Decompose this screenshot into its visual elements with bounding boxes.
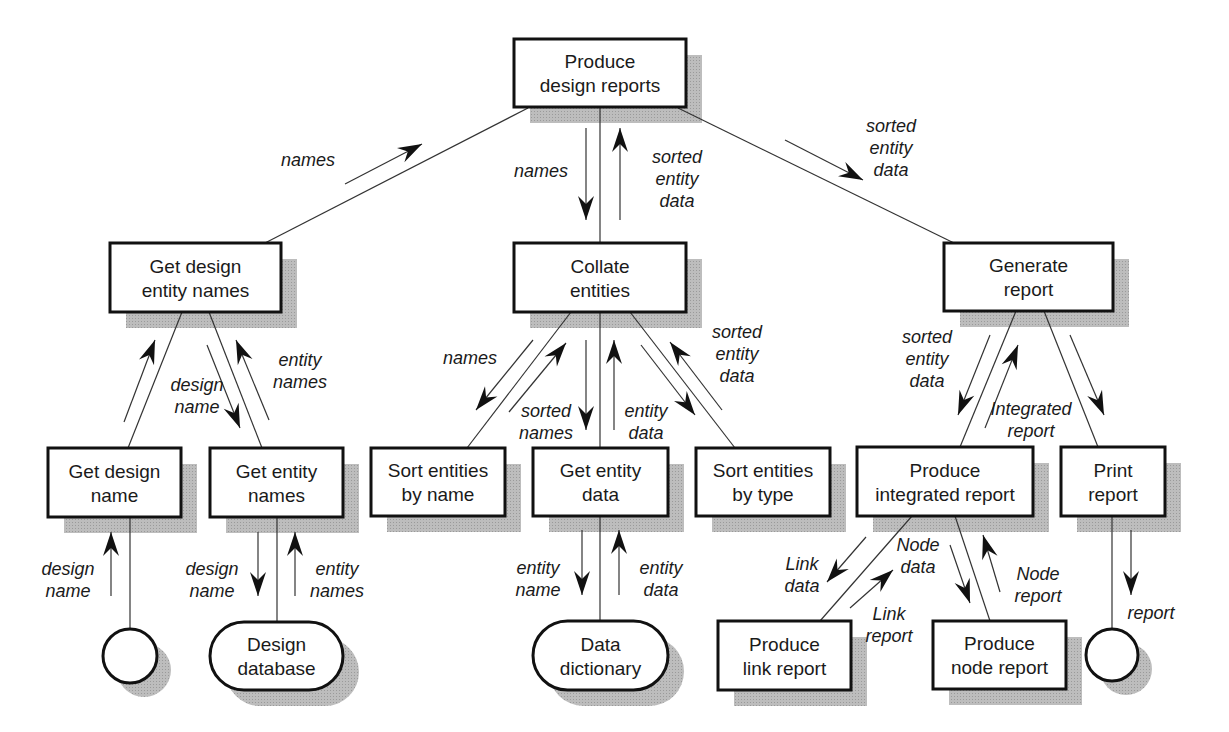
flow-label: entity [715,344,759,364]
module-sort-entities-by-name[interactable]: Sort entitiesby name [371,448,505,516]
module-label: Produce [964,633,1035,654]
module-produce-node-report[interactable]: Producenode report [933,621,1066,689]
module-label: data [582,484,619,505]
module-box [944,243,1113,311]
module-label: Data [580,634,621,655]
data-flow: entitynames [236,340,327,420]
data-store-shape [210,622,343,690]
module-terminator-left[interactable] [103,629,157,683]
module-data-dictionary[interactable]: Datadictionary [533,621,668,690]
module-label: name [91,485,139,506]
flow-label: report [1127,603,1175,623]
arrowhead-icon [870,570,893,592]
module-label: by type [732,484,793,505]
flow-label: data [900,557,935,577]
module-get-design-name[interactable]: Get designname [48,448,181,517]
data-flow: names [281,144,422,184]
structure-chart: Producedesign reportsGet designentity na… [0,0,1229,732]
flow-label: entity [315,559,359,579]
flow-label: Integrated [990,399,1072,419]
module-box [1061,447,1165,516]
module-design-database[interactable]: Designdatabase [210,622,343,690]
flow-label: names [443,348,497,368]
module-generate-report[interactable]: Generatereport [944,243,1113,311]
flow-label: sorted [652,147,703,167]
data-flow: entitydata [611,530,684,600]
data-flow [124,340,155,422]
data-flow: sortedentitydata [612,128,703,220]
arrowhead-icon [827,559,849,582]
data-flow: entitynames [287,532,364,601]
module-get-design-entity-names[interactable]: Get designentity names [110,243,281,312]
module-label: Produce [749,634,820,655]
terminator-circle [1086,629,1138,681]
flow-label: Link [785,554,819,574]
module-label: Sort entities [388,460,488,481]
module-label: entity names [142,280,250,301]
data-flow: sortedentitydata [670,322,763,410]
module-produce-integrated-report[interactable]: Produceintegrated report [857,447,1033,516]
flow-label: entity [624,401,668,421]
module-label: Generate [989,255,1068,276]
arrowhead-icon [545,343,567,367]
module-sort-entities-by-type[interactable]: Sort entitiesby type [696,448,830,516]
module-label: Sort entities [713,460,813,481]
data-flow: designname [170,345,240,428]
flow-label: Link [872,604,906,624]
data-flow: Linkreport [850,570,914,646]
module-box [514,39,686,107]
module-box [110,243,281,312]
module-get-entity-data[interactable]: Get entitydata [533,448,668,516]
module-label: Get entity [560,460,642,481]
module-label: Get design [150,256,242,277]
module-produce-link-report[interactable]: Producelink report [718,621,851,690]
data-flow: entityname [515,530,590,600]
module-collate-entities[interactable]: Collateentities [514,243,686,312]
data-flow: Linkdata [784,537,866,596]
flow-label: data [643,580,678,600]
flow-label: report [865,626,913,646]
flow-label: names [310,581,364,601]
flow-label: entity [278,350,322,370]
data-flow: entitydata [606,340,669,443]
module-label: Collate [570,256,629,277]
data-flow: Nodedata [896,535,970,603]
flow-label: sorted [866,116,917,136]
flow-label: name [515,580,560,600]
flow-label: entity [869,138,913,158]
shadow-layer [64,55,1181,706]
flow-label: names [281,150,335,170]
module-label: by name [402,484,475,505]
flow-label: data [719,366,754,386]
flow-label: name [189,581,234,601]
flow-label: design [41,559,94,579]
data-flow: sortedentitydata [902,327,990,415]
module-box [857,447,1033,516]
module-print-report[interactable]: Printreport [1061,447,1165,516]
flow-label: sorted [902,327,953,347]
arrowhead-icon [670,342,691,366]
data-flow [578,340,594,430]
flow-label: names [273,372,327,392]
module-box [533,448,668,516]
module-box [718,621,851,690]
module-box [933,621,1066,689]
module-terminator-right[interactable] [1086,629,1138,681]
flow-label: name [174,397,219,417]
data-store-shape [533,621,668,690]
arrowhead-icon [1087,390,1104,415]
flow-label: entity [639,558,683,578]
arrowhead-icon [674,391,695,415]
module-get-entity-names[interactable]: Get entitynames [210,448,343,517]
data-flow: report [1123,530,1176,623]
module-label: names [248,485,305,506]
flow-label: design [170,375,223,395]
flow-label: data [628,423,663,443]
module-label: report [1088,484,1138,505]
module-produce-design-reports[interactable]: Producedesign reports [514,39,686,107]
data-flow-layer: namesnamessortedentitydatasortedentityda… [41,116,1175,646]
module-label: entities [570,280,630,301]
flow-label: sorted [712,322,763,342]
module-label: Produce [565,51,636,72]
module-box [514,243,686,312]
